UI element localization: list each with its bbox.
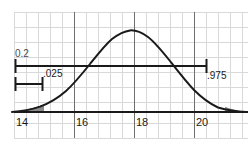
lower-tail-probability-label: .025 xyxy=(43,68,63,79)
x-tick-label-18: 18 xyxy=(136,116,148,128)
x-tick-label-20: 20 xyxy=(196,116,208,128)
upper-tail-probability-label: .975 xyxy=(207,70,227,81)
x-tick-label-16: 16 xyxy=(76,116,88,128)
y-axis-value-label: 0.2 xyxy=(15,48,29,59)
x-tick-label-14: 14 xyxy=(16,116,28,128)
normal-distribution-chart: 0.2 .025 .975 14 16 18 20 xyxy=(0,0,250,144)
chart-canvas: 0.2 .025 .975 14 16 18 20 xyxy=(0,0,250,144)
